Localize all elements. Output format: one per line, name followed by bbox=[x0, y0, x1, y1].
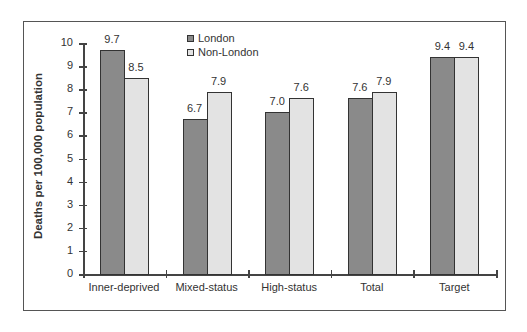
bar-non-london bbox=[207, 92, 232, 275]
data-label: 9.4 bbox=[451, 40, 481, 52]
x-tick bbox=[496, 270, 498, 278]
y-tick bbox=[79, 112, 87, 114]
data-label: 9.7 bbox=[97, 33, 127, 45]
y-tick-label: 7 bbox=[53, 105, 73, 117]
y-tick-label: 6 bbox=[53, 128, 73, 140]
y-tick-label: 2 bbox=[53, 221, 73, 233]
legend-swatch-icon bbox=[187, 35, 194, 42]
legend-swatch-icon bbox=[187, 49, 194, 56]
bar-london bbox=[183, 119, 208, 275]
y-tick-label: 3 bbox=[53, 198, 73, 210]
y-tick-label: 5 bbox=[53, 152, 73, 164]
y-tick-label: 0 bbox=[53, 267, 73, 279]
y-tick-label: 8 bbox=[53, 82, 73, 94]
x-tick-label: Mixed-status bbox=[166, 281, 248, 293]
data-label: 7.0 bbox=[262, 95, 292, 107]
y-tick bbox=[79, 205, 87, 207]
bar-non-london bbox=[372, 92, 397, 275]
data-label: 7.6 bbox=[286, 81, 316, 93]
y-tick bbox=[79, 89, 87, 91]
data-label: 6.7 bbox=[180, 102, 210, 114]
y-tick-label: 4 bbox=[53, 175, 73, 187]
bar-non-london bbox=[124, 78, 149, 275]
y-tick bbox=[79, 135, 87, 137]
legend-item: London bbox=[187, 31, 259, 45]
x-tick bbox=[331, 270, 333, 278]
y-tick-label: 1 bbox=[53, 244, 73, 256]
y-tick-label: 10 bbox=[53, 36, 73, 48]
x-tick bbox=[248, 270, 250, 278]
y-tick bbox=[79, 66, 87, 68]
bar-london bbox=[430, 57, 455, 275]
legend-label: Non-London bbox=[198, 46, 259, 58]
y-tick bbox=[79, 43, 87, 45]
y-tick-label: 9 bbox=[53, 59, 73, 71]
x-tick bbox=[166, 270, 168, 278]
x-tick-label: Total bbox=[331, 281, 413, 293]
data-label: 7.9 bbox=[204, 75, 234, 87]
data-label: 7.9 bbox=[369, 75, 399, 87]
legend-label: London bbox=[198, 32, 235, 44]
legend: LondonNon-London bbox=[187, 31, 259, 59]
x-tick-label: Inner-deprived bbox=[83, 281, 165, 293]
y-tick bbox=[79, 228, 87, 230]
y-tick bbox=[79, 159, 87, 161]
y-tick bbox=[79, 251, 87, 253]
data-label: 8.5 bbox=[121, 61, 151, 73]
x-tick-label: High-status bbox=[248, 281, 330, 293]
bar-london bbox=[100, 50, 125, 275]
x-tick bbox=[413, 270, 415, 278]
bar-london bbox=[265, 112, 290, 275]
bar-non-london bbox=[289, 98, 314, 275]
y-tick bbox=[79, 182, 87, 184]
bar-london bbox=[348, 98, 373, 275]
x-tick bbox=[83, 270, 85, 278]
x-tick-label: Target bbox=[413, 281, 495, 293]
y-axis-label: Deaths per 100,000 population bbox=[32, 56, 44, 256]
legend-item: Non-London bbox=[187, 45, 259, 59]
bar-non-london bbox=[454, 57, 479, 275]
